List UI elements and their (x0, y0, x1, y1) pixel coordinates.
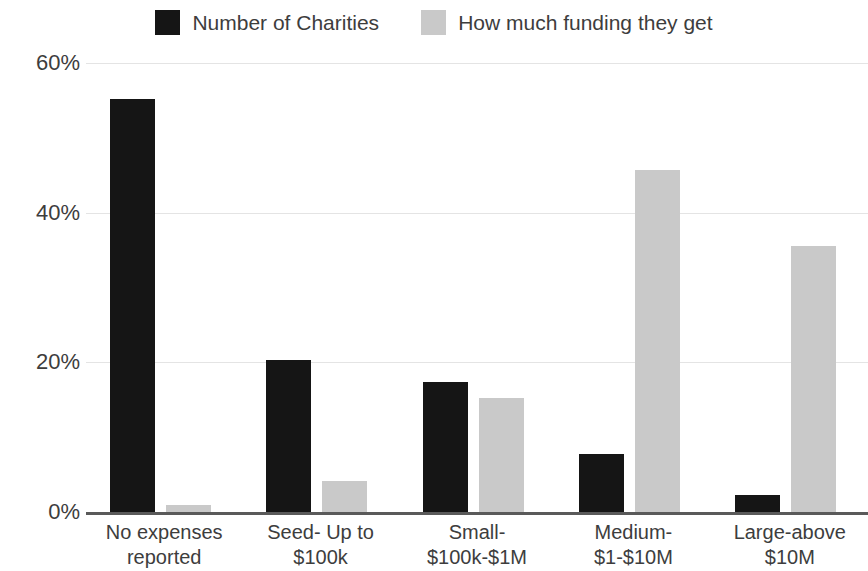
x-axis-tick-line: Large-above (712, 520, 868, 545)
x-axis-tick-label: No expensesreported (86, 520, 242, 570)
y-axis: 0%20%40%60% (0, 63, 80, 512)
bar-chart: Number of Charities How much funding the… (0, 0, 868, 571)
y-axis-tick-label: 20% (0, 351, 80, 373)
x-axis-baseline (86, 512, 868, 515)
bar (479, 398, 524, 512)
bar (110, 99, 155, 512)
x-axis-tick-line: Small- (399, 520, 555, 545)
bar (166, 505, 211, 512)
bar (735, 495, 780, 512)
y-axis-tick-label: 60% (0, 52, 80, 74)
plot-area (86, 63, 868, 512)
legend-item-number-of-charities: Number of Charities (155, 10, 379, 35)
legend-item-funding: How much funding they get (421, 10, 712, 35)
x-axis-tick-line: No expenses (86, 520, 242, 545)
legend-label-number-of-charities: Number of Charities (192, 12, 379, 33)
x-axis-tick-label: Small-$100k-$1M (399, 520, 555, 570)
gridline (86, 63, 868, 64)
x-axis-tick-line: reported (86, 545, 242, 570)
x-axis-tick-line: $10M (712, 545, 868, 570)
x-axis-tick-line: $100k (242, 545, 398, 570)
bar (423, 382, 468, 512)
x-axis: No expensesreportedSeed- Up to$100kSmall… (86, 520, 868, 571)
legend-swatch-light-icon (421, 10, 446, 35)
y-axis-tick-label: 0% (0, 501, 80, 523)
gridline (86, 362, 868, 363)
bar (322, 481, 367, 512)
x-axis-tick-label: Seed- Up to$100k (242, 520, 398, 570)
y-axis-tick-label: 40% (0, 202, 80, 224)
x-axis-tick-line: $1-$10M (555, 545, 711, 570)
chart-legend: Number of Charities How much funding the… (0, 0, 868, 44)
bar (266, 360, 311, 512)
legend-swatch-dark-icon (155, 10, 180, 35)
bar (579, 454, 624, 512)
gridline (86, 213, 868, 214)
x-axis-tick-line: $100k-$1M (399, 545, 555, 570)
x-axis-tick-line: Medium- (555, 520, 711, 545)
x-axis-tick-line: Seed- Up to (242, 520, 398, 545)
bar (635, 170, 680, 512)
x-axis-tick-label: Large-above$10M (712, 520, 868, 570)
x-axis-tick-label: Medium-$1-$10M (555, 520, 711, 570)
bar (791, 246, 836, 512)
legend-label-funding: How much funding they get (458, 12, 712, 33)
